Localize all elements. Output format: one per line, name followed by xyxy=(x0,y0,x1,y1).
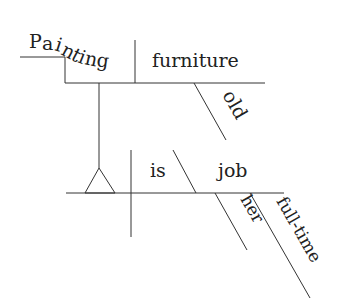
word-her: her xyxy=(237,191,269,227)
complement-slash xyxy=(173,150,196,193)
word-is: is xyxy=(150,159,166,181)
word-painting: P a i n t i n g xyxy=(29,30,111,72)
word-old: old xyxy=(219,86,253,123)
stand-triangle xyxy=(85,168,115,193)
word-full-time: full-time xyxy=(273,193,326,266)
svg-text:P: P xyxy=(29,30,42,52)
word-job: job xyxy=(216,159,248,181)
old-modifier-line xyxy=(194,83,226,140)
sentence-diagram: P a i n t i n g furniture old is job her… xyxy=(0,0,347,307)
svg-text:a: a xyxy=(42,32,53,54)
svg-text:g: g xyxy=(95,48,110,71)
word-furniture: furniture xyxy=(152,49,239,71)
